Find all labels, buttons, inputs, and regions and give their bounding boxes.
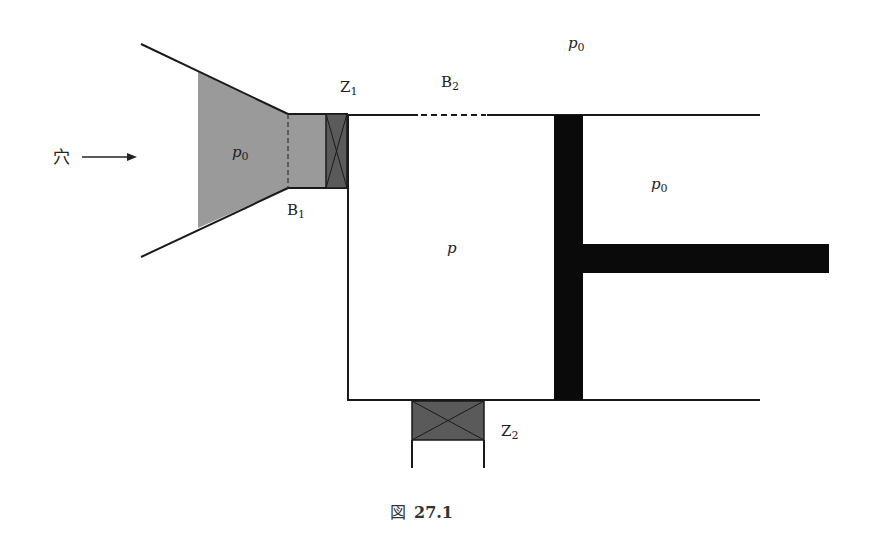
valve-z2 — [412, 401, 484, 468]
label-b2: B2 — [441, 73, 459, 93]
label-p0-top: p0 — [568, 34, 585, 54]
label-hole: 穴 — [53, 147, 70, 167]
label-p0-right: p0 — [651, 175, 668, 195]
inlet-gas-region — [198, 72, 326, 228]
label-z1: Z1 — [340, 78, 357, 98]
valve-z1 — [326, 114, 347, 188]
label-p-chamber: p — [447, 239, 457, 257]
arrow-head-icon — [127, 153, 137, 161]
piston-rod — [583, 244, 829, 273]
figure-caption: 図27.1 — [390, 503, 453, 522]
label-b1: B1 — [287, 201, 305, 221]
label-z2: Z2 — [501, 422, 518, 442]
piston-head — [554, 115, 583, 400]
figure-diagram: 穴 p0 p0 p0 p Z1 B2 B1 Z2 図27.1 — [0, 0, 873, 559]
